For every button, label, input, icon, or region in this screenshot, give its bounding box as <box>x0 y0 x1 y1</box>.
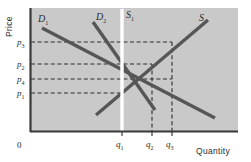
x-axis-label: Quantity <box>196 146 231 156</box>
curve-label-s: S <box>199 12 204 23</box>
origin-label: 0 <box>17 140 22 150</box>
y-axis-label: Price <box>4 16 14 37</box>
supply-demand-figure: Price Quantity 0 p3 p2 p4 p1 q1 q2 q3 D1… <box>0 0 251 162</box>
